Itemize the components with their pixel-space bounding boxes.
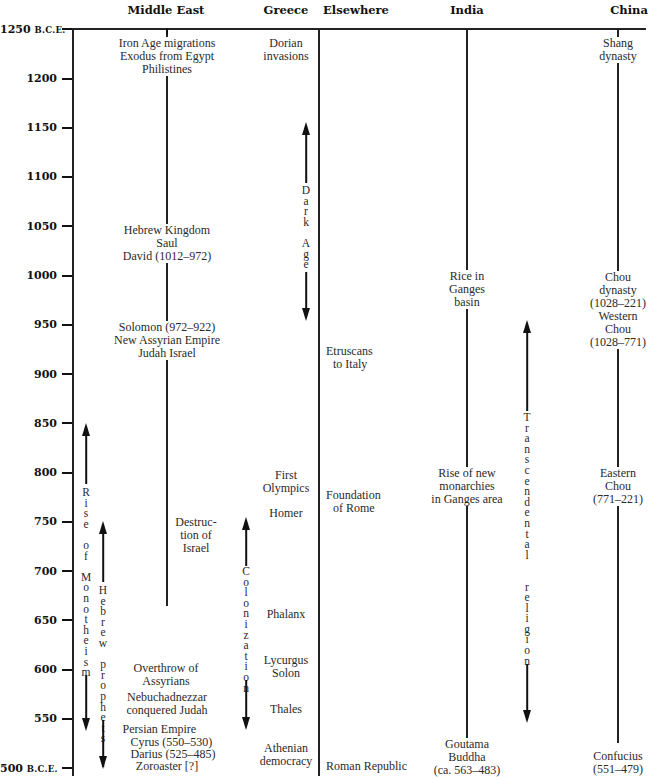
event-foundation-of-rome: Foundationof Rome	[326, 489, 381, 515]
tick-label-1150: 1150	[0, 121, 57, 134]
event-iron-age: Iron Age migrationsExodus from EgyptPhil…	[118, 37, 217, 76]
tick-label-1050: 1050	[0, 220, 57, 233]
time-axis	[72, 28, 74, 776]
header-middle-east: Middle East	[128, 3, 205, 17]
label-colonization: Colonization	[240, 566, 252, 693]
header-india: India	[450, 3, 484, 17]
india-timeline	[466, 28, 468, 746]
event-dorian-invasions: Dorianinvasions	[262, 37, 309, 63]
tick-label-800: 800	[0, 466, 57, 479]
header-china: China	[610, 3, 648, 17]
event-first-olympics: FirstOlympics	[262, 469, 311, 495]
event-zoroaster: Zoroaster [?]	[135, 760, 199, 773]
tick-label-550: 550	[0, 712, 57, 725]
event-athenian-democracy: Atheniandemocracy	[259, 742, 314, 768]
event-goutama-buddha: GoutamaBuddha(ca. 563–483)	[433, 738, 502, 777]
event-rice-in-ganges: Rice inGangesbasin	[448, 270, 486, 309]
tick-label-750: 750	[0, 515, 57, 528]
tick-label-600: 600	[0, 663, 57, 676]
tick-label-1000: 1000	[0, 269, 57, 282]
event-destruction-of-israel: Destruc-tion ofIsrael	[174, 516, 217, 555]
event-persian-empire: Persian Empire Cyrus (550–530) Darius (5…	[122, 723, 217, 761]
tick-label-700: 700	[0, 565, 57, 578]
header-greece: Greece	[264, 3, 309, 17]
tick-label-1100: 1100	[0, 170, 57, 183]
event-roman-republic: Roman Republic	[326, 760, 407, 773]
event-eastern-chou: EasternChou(771–221)	[592, 467, 644, 506]
tick-label-1200: 1200	[0, 72, 57, 85]
event-overthrow-of-assyrians: Overthrow ofAssyrians	[133, 662, 200, 688]
event-chou-dynasty: Choudynasty(1028–221) WesternChou(1028–7…	[589, 271, 647, 349]
event-shang-dynasty: Shangdynasty	[598, 37, 637, 63]
label-rise-of-monotheism: Rise of Monotheism	[80, 487, 92, 678]
event-etruscans: Etruscansto Italy	[326, 345, 373, 371]
event-hebrew-kingdom: Hebrew KingdomSaulDavid (1012–972)	[122, 224, 212, 263]
china-timeline	[617, 28, 619, 743]
label-dark-age: Dark Age	[300, 185, 312, 270]
tick-label-1250: 1250 B.C.E.	[0, 23, 57, 36]
tick-label-500: 500 B.C.E.	[0, 762, 57, 775]
middle-east-timeline	[166, 28, 168, 606]
tick-label-900: 900	[0, 368, 57, 381]
top-frame-line	[72, 28, 646, 30]
column-divider	[318, 28, 320, 776]
event-solomon: Solomon (972–922)New Assyrian EmpireJuda…	[113, 321, 221, 360]
tick-label-850: 850	[0, 417, 57, 430]
event-rise-of-new-monarchies: Rise of newmonarchiesin Ganges area	[430, 467, 503, 506]
event-thales: Thales	[269, 703, 303, 716]
middle-east-top-notch	[166, 28, 168, 34]
tick-label-950: 950	[0, 318, 57, 331]
event-lycurgus-solon: LycurgusSolon	[263, 654, 309, 680]
event-nebuchadnezzar: Nebuchadnezzarconquered Judah	[126, 691, 209, 717]
header-elsewhere: Elsewhere	[323, 3, 389, 17]
event-homer: Homer	[268, 507, 303, 520]
event-confucius: Confucius(551–479)	[592, 750, 644, 776]
event-phalanx: Phalanx	[266, 608, 307, 621]
label-transcendental-religion: Transcendental religion	[521, 412, 533, 666]
tick-label-650: 650	[0, 614, 57, 627]
